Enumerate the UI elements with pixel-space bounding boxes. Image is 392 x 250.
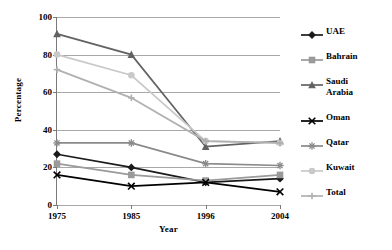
y-tick-label: 100 [39,12,53,22]
legend-item-qatar[interactable]: Qatar [300,133,392,158]
legend-marker-asterisk-icon [300,138,324,150]
legend-marker-circle-icon [300,163,324,175]
legend-label: Bahrain [326,51,358,62]
legend-label: Kuwait [326,162,355,173]
y-axis-title: Percentage [13,55,23,145]
legend-label: Total [326,187,346,198]
y-tick-label: 40 [43,125,52,135]
y-tick-label: 80 [43,50,52,60]
legend-label: Qatar [326,137,349,148]
data-point-plus [309,193,316,200]
data-point-asterisk [202,160,209,167]
gridline [57,205,280,206]
x-tick-label: 1975 [48,211,66,221]
data-point-asterisk [276,162,283,169]
legend-marker-square-icon [300,52,324,64]
legend-marker-plus-icon [300,188,324,200]
x-tick-mark [206,205,207,209]
plot-area: 020406080100 1975198519962004 [57,17,280,205]
x-tick-label: 1985 [122,211,140,221]
y-tick-label: 60 [43,87,52,97]
data-point-plus [54,66,61,73]
x-tick-label: 2004 [271,211,289,221]
legend-marker-x-icon [300,113,324,125]
x-tick-mark [57,205,58,209]
data-point-diamond [308,31,316,39]
chart-legend: UAEBahrainSaudi ArabiaOmanQatarKuwaitTot… [300,22,392,208]
data-point-circle [128,72,135,79]
legend-item-kuwait[interactable]: Kuwait [300,158,392,183]
data-point-diamond [53,150,61,158]
x-tick-mark [280,205,281,209]
series-line [57,34,280,147]
legend-item-uae[interactable]: UAE [300,22,392,47]
series-total [54,66,284,146]
x-tick-mark [131,205,132,209]
series-layer [57,17,280,205]
legend-label: Oman [326,112,350,123]
legend-label: Saudi Arabia [326,76,353,98]
data-point-asterisk [53,139,60,146]
data-point-triangle [53,30,61,37]
legend-marker-triangle-icon [300,77,324,89]
data-point-asterisk [128,139,135,146]
legend-marker-diamond-icon [300,27,324,39]
data-point-square [128,172,135,179]
line-chart: Percentage 020406080100 1975198519962004… [0,0,392,250]
series-line [57,143,280,166]
legend-item-oman[interactable]: Oman [300,108,392,133]
y-tick-label: 0 [48,200,53,210]
legend-item-saudi-arabia[interactable]: Saudi Arabia [300,72,392,108]
data-point-circle [54,51,61,58]
data-point-asterisk [308,142,315,149]
legend-item-total[interactable]: Total [300,183,392,208]
data-point-diamond [127,164,135,172]
series-saudi-arabia [53,30,284,150]
data-point-square [54,160,61,167]
series-kuwait [54,51,284,146]
data-point-square [309,57,316,64]
legend-label: UAE [326,26,345,37]
legend-item-bahrain[interactable]: Bahrain [300,47,392,72]
x-axis-title: Year [57,224,280,234]
series-line [57,55,280,143]
x-tick-label: 1996 [197,211,215,221]
data-point-square [277,172,284,179]
y-tick-label: 20 [43,162,52,172]
series-line [57,70,280,143]
series-line [57,164,280,181]
data-point-circle [309,168,316,175]
